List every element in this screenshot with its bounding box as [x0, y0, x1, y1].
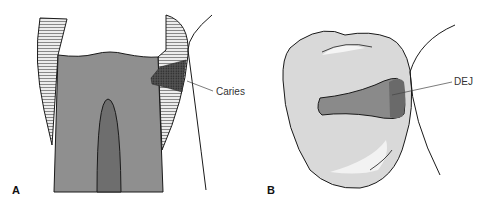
caries-leader [187, 81, 213, 91]
caries-label: Caries [216, 86, 245, 97]
panel-a-label: A [12, 184, 20, 196]
adjacent-tooth-contour [410, 25, 455, 175]
dental-caries-diagram: Caries A DEJ B [0, 0, 479, 199]
panel-b-label: B [267, 184, 275, 196]
adjacent-tooth-contour [188, 15, 212, 190]
panel-b: DEJ B [267, 25, 473, 196]
dej-label: DEJ [454, 76, 473, 87]
panel-a: Caries A [12, 15, 245, 196]
lesion-dark [389, 79, 405, 118]
